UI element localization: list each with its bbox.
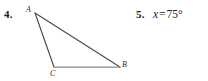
triangle-vertex-label-c: C [50, 70, 55, 78]
worksheet-page: 4. A C B 5. x=75° [0, 0, 208, 81]
answer-value: 75° [167, 8, 183, 20]
triangle-vertex-label-b: B [122, 61, 127, 69]
answer-expression-5: x=75° [153, 8, 183, 20]
answer-equals-sign: = [158, 8, 167, 20]
triangle-edge-ab [35, 13, 120, 67]
triangle-figure-abc [0, 0, 140, 81]
triangle-svg [0, 0, 140, 81]
exercise-number-5: 5. [136, 8, 145, 20]
triangle-edge-ac [35, 13, 54, 67]
triangle-vertex-label-a: A [26, 6, 31, 14]
